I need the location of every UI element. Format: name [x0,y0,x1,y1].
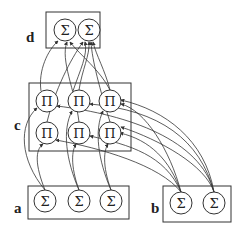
node-c1: Π [36,90,58,112]
node-a3: Σ [100,190,122,212]
node-a1: Σ [34,190,56,212]
svg-text:Σ: Σ [176,196,185,211]
group-d-label: d [26,29,35,45]
node-a2: Σ [68,190,90,212]
svg-text:Σ: Σ [84,23,93,38]
svg-text:Π: Π [104,126,115,141]
svg-text:Π: Π [41,94,52,109]
node-b1: Σ [170,192,192,214]
sum-product-network-diagram: d Σ Σ c Π Π Π Π Π [0,0,247,233]
node-c6: Π [99,122,121,144]
svg-text:Π: Π [73,94,84,109]
group-a: a Σ Σ Σ [14,186,129,219]
edges-inputs-to-products [24,100,214,192]
svg-text:Π: Π [41,126,52,141]
group-c-label: c [14,117,21,133]
node-d1: Σ [54,19,76,41]
svg-text:Σ: Σ [74,194,83,209]
node-c2: Π [68,90,90,112]
svg-text:Π: Π [73,126,84,141]
node-c4: Π [36,122,58,144]
svg-text:Σ: Σ [209,196,218,211]
node-c5: Π [68,122,90,144]
svg-text:Π: Π [104,94,115,109]
node-b2: Σ [203,192,225,214]
node-c3: Π [99,90,121,112]
svg-text:Σ: Σ [106,194,115,209]
group-b: b Σ Σ [151,186,231,222]
svg-text:Σ: Σ [60,23,69,38]
group-b-label: b [151,200,159,216]
svg-text:Σ: Σ [40,194,49,209]
group-a-label: a [14,200,22,216]
node-d2: Σ [78,19,100,41]
